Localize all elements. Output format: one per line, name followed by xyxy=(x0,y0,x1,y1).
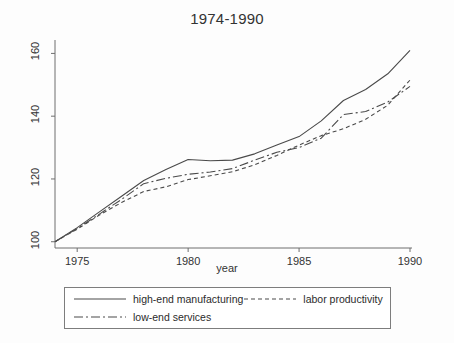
series-line-1 xyxy=(55,80,410,242)
y-tick-label: 160 xyxy=(29,37,41,65)
series-line-2 xyxy=(55,86,410,241)
legend-item[interactable]: labor productivity xyxy=(243,293,384,305)
y-tick-label: 120 xyxy=(29,163,41,191)
series-line-0 xyxy=(55,50,410,241)
legend-label: low-end services xyxy=(133,311,211,323)
legend-item[interactable]: high-end manufacturing xyxy=(73,293,243,305)
x-axis-title: year xyxy=(0,262,454,274)
plot-svg xyxy=(0,0,454,265)
chart-page: 1974-1990 100120140160 1975198019851990 … xyxy=(0,0,454,343)
legend-key-dash-dot xyxy=(73,312,127,322)
legend-key-solid xyxy=(73,294,127,304)
plot-area: 100120140160 1975198019851990 xyxy=(0,0,454,265)
legend-key-dashed xyxy=(243,294,297,304)
y-tick-label: 140 xyxy=(29,100,41,128)
y-tick-label: 100 xyxy=(29,226,41,254)
series-lines xyxy=(55,50,410,241)
axes xyxy=(51,40,412,252)
legend-label: labor productivity xyxy=(303,293,382,305)
legend-label: high-end manufacturing xyxy=(133,293,243,305)
legend: high-end manufacturinglabor productivity… xyxy=(64,287,391,329)
legend-item[interactable]: low-end services xyxy=(73,311,243,323)
